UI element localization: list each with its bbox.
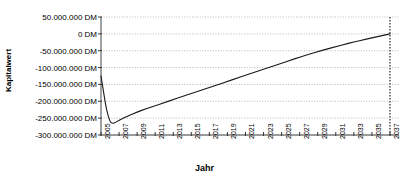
plot-area bbox=[0, 0, 409, 182]
x-axis-title: Jahr bbox=[0, 163, 409, 173]
capital-value-chart: Kapitalwert 50.000.000 DM0 DM-50.000.000… bbox=[0, 0, 409, 182]
data-series-line bbox=[101, 34, 390, 123]
